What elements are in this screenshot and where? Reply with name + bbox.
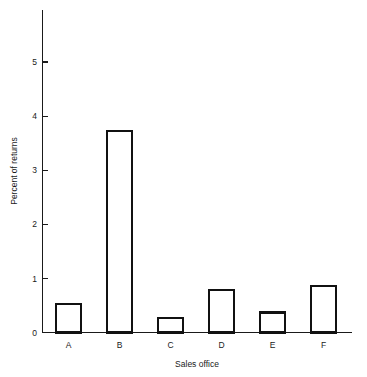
y-tick-label-5: 5 (32, 57, 37, 67)
y-axis-title: Percent of returns (9, 137, 19, 205)
bar-D (209, 290, 234, 332)
bar-B (107, 131, 132, 332)
x-tick-label-B: B (117, 340, 123, 350)
x-tick-label-F: F (321, 340, 326, 350)
bar-A (56, 304, 81, 332)
bar-C (158, 318, 183, 332)
y-tick-label-4: 4 (32, 111, 37, 121)
x-tick-label-D: D (218, 340, 224, 350)
y-tick-label-3: 3 (32, 165, 37, 175)
x-axis-title: Sales office (175, 359, 219, 369)
bar-E (260, 313, 285, 333)
x-tick-label-A: A (66, 340, 72, 350)
y-tick-label-1: 1 (32, 274, 37, 284)
chart-canvas: 0 1 2 3 4 5 A B C D E F Sales office (0, 0, 367, 377)
x-tick-label-C: C (167, 340, 173, 350)
x-tick-label-E: E (270, 340, 276, 350)
y-tick-label-0: 0 (32, 328, 37, 338)
y-tick-label-2: 2 (32, 219, 37, 229)
bar-F (311, 286, 336, 333)
bar-chart-figure: 0 1 2 3 4 5 A B C D E F Sales office (0, 0, 367, 377)
